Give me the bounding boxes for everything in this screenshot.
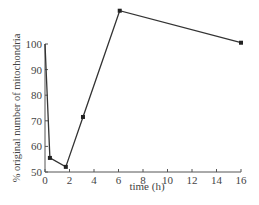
y-tick-label: 90 [31, 64, 43, 76]
x-axis-label: time (h) [129, 180, 164, 193]
data-point [118, 9, 122, 13]
x-tick-label: 16 [236, 174, 248, 186]
y-tick-label: 70 [31, 115, 43, 127]
data-point [81, 115, 85, 119]
ticks: 50607080901000246810121416 [26, 38, 248, 186]
y-tick-label: 60 [31, 140, 43, 152]
data-point [239, 41, 243, 45]
series-line [45, 11, 241, 167]
y-tick-label: 100 [26, 38, 43, 50]
y-tick-label: 80 [31, 89, 43, 101]
data-series [45, 9, 243, 169]
x-tick-label: 14 [211, 174, 223, 186]
y-axis-label: % original number of mitochondria [11, 33, 22, 182]
x-tick-label: 2 [67, 174, 73, 186]
data-point [64, 165, 68, 169]
y-tick-label: 50 [31, 166, 43, 178]
x-tick-label: 4 [91, 174, 97, 186]
x-tick-label: 0 [42, 174, 48, 186]
axes [45, 44, 241, 172]
line-chart: 50607080901000246810121416 time (h) % or… [0, 0, 259, 205]
x-tick-label: 6 [116, 174, 122, 186]
data-point [48, 156, 52, 160]
x-tick-label: 12 [187, 174, 198, 186]
